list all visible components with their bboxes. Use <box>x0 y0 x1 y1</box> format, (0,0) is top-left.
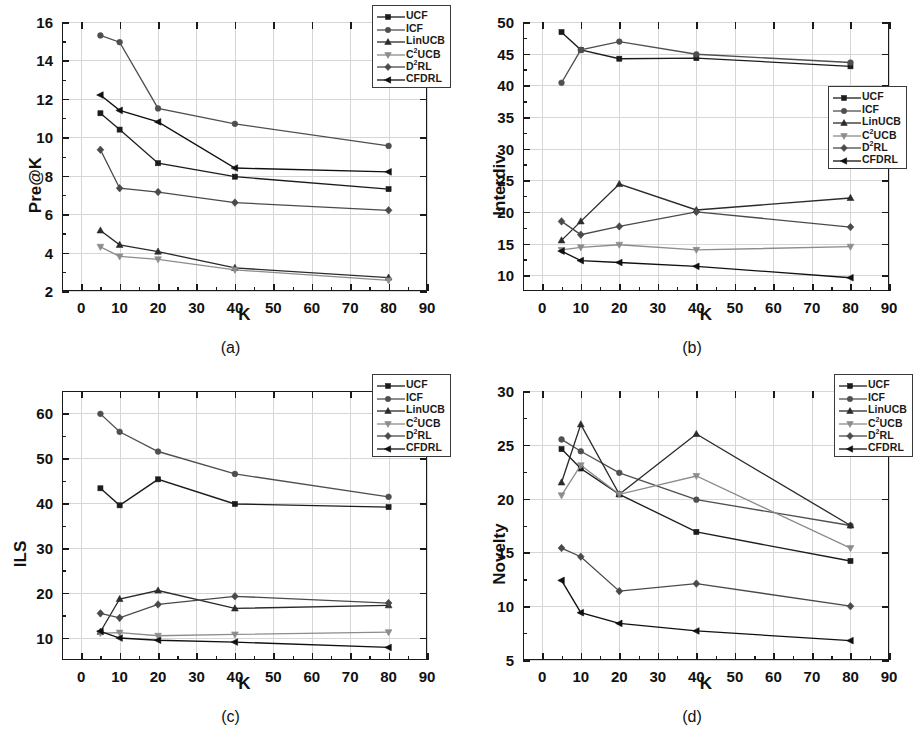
data-point <box>616 620 623 627</box>
legend-item-CUCB: C2UCB <box>832 128 901 141</box>
data-point <box>232 501 237 506</box>
series-LinUCB <box>558 180 854 242</box>
data-point <box>577 421 584 427</box>
legend-marker-icon <box>838 391 868 403</box>
data-point <box>848 558 853 563</box>
x-tick <box>427 284 429 291</box>
legend-marker-icon <box>376 416 406 428</box>
data-point <box>232 174 237 179</box>
panel-caption: (a) <box>0 339 461 357</box>
legend-item-CFDRL: CFDRL <box>832 153 901 166</box>
legend-marker <box>385 396 390 401</box>
data-point <box>156 477 161 482</box>
legend-marker <box>385 384 390 389</box>
series-CUCB <box>558 242 854 253</box>
y-axis-label: Interdiv <box>490 154 510 215</box>
legend-marker-icon <box>376 391 406 403</box>
x-axis-label: K <box>62 674 427 694</box>
legend-marker-icon <box>832 115 862 127</box>
data-point <box>616 223 623 231</box>
series-CFDRL <box>558 248 853 281</box>
panel-caption: (d) <box>461 708 923 726</box>
series-ICF <box>98 33 392 149</box>
legend-label: D2RL <box>406 428 432 440</box>
y-tick <box>62 291 69 293</box>
legend-label: LinUCB <box>406 404 445 415</box>
legend-item-UCF: UCF <box>838 378 907 391</box>
x-axis-label: K <box>523 674 889 694</box>
legend-marker <box>847 396 852 401</box>
legend-marker-icon <box>376 34 406 46</box>
data-point <box>386 505 391 510</box>
legend-symbol-triangle-left <box>376 74 406 86</box>
figure-grid: 2468101214160102030405060708090Pre@KK(a)… <box>0 0 923 738</box>
data-point <box>231 199 238 207</box>
data-point <box>385 278 392 284</box>
legend-marker-icon <box>832 90 862 102</box>
data-point <box>97 146 104 154</box>
legend-marker <box>840 158 846 164</box>
legend-label: C2UCB <box>862 128 897 140</box>
y-tick-label: 10 <box>497 267 514 284</box>
series-CFDRL <box>97 92 392 175</box>
data-point <box>578 47 584 53</box>
data-point <box>559 447 564 452</box>
series-DRL <box>558 208 854 238</box>
y-tick-label: 10 <box>36 629 53 646</box>
series-line <box>100 596 388 618</box>
legend-marker-icon <box>838 403 868 415</box>
data-point <box>616 180 623 186</box>
series-line <box>562 42 851 83</box>
series-line <box>100 35 388 145</box>
data-point <box>847 637 854 644</box>
legend-item-ICF: ICF <box>838 391 907 404</box>
series-line <box>562 32 851 66</box>
y-tick-label: 10 <box>497 598 514 615</box>
series-CFDRL <box>97 628 392 651</box>
legend-item-DRL: D2RL <box>832 140 901 153</box>
series-ICF <box>98 411 392 500</box>
legend-label: UCF <box>406 10 428 21</box>
legend-label: C2UCB <box>406 47 441 59</box>
data-point <box>116 614 123 622</box>
data-point <box>385 169 392 176</box>
series-DRL <box>97 146 392 214</box>
series-line <box>562 449 851 561</box>
legend-item-CUCB: C2UCB <box>376 416 445 429</box>
legend-symbol-triangle-left <box>376 443 406 455</box>
legend-marker <box>384 446 390 452</box>
data-point <box>117 39 123 45</box>
data-point <box>559 80 565 86</box>
data-point <box>848 60 854 66</box>
legend-marker <box>385 433 392 440</box>
legend-item-ICF: ICF <box>376 22 445 35</box>
data-point <box>97 227 104 233</box>
legend-label: C2UCB <box>406 416 441 428</box>
y-tick-label: 2 <box>45 283 53 300</box>
legend-label: ICF <box>862 104 879 115</box>
gridline-horizontal <box>523 660 889 661</box>
legend-label: D2RL <box>868 428 894 440</box>
y-tick-label: 50 <box>36 450 53 467</box>
series-line <box>562 424 851 525</box>
legend-marker <box>384 77 390 83</box>
series-UCF <box>98 477 391 510</box>
legend-marker-icon <box>838 416 868 428</box>
legend-item-DRL: D2RL <box>376 59 445 72</box>
legend-marker-icon <box>838 428 868 440</box>
data-point <box>616 259 623 266</box>
data-point <box>847 194 854 200</box>
data-point <box>386 494 392 500</box>
legend-item-CUCB: C2UCB <box>838 416 907 429</box>
gridline-horizontal <box>62 291 427 292</box>
y-tick-label: 35 <box>497 108 514 125</box>
legend-symbol-triangle-left <box>838 443 868 455</box>
legend-panel-c: UCFICFLinUCBC2UCBD2RLCFDRL <box>372 374 451 457</box>
data-point <box>385 207 392 215</box>
data-point <box>693 580 700 588</box>
data-point <box>694 51 700 57</box>
data-point <box>847 602 854 610</box>
series-line <box>100 632 388 636</box>
legend-marker-icon <box>376 72 406 84</box>
data-point <box>155 587 162 593</box>
